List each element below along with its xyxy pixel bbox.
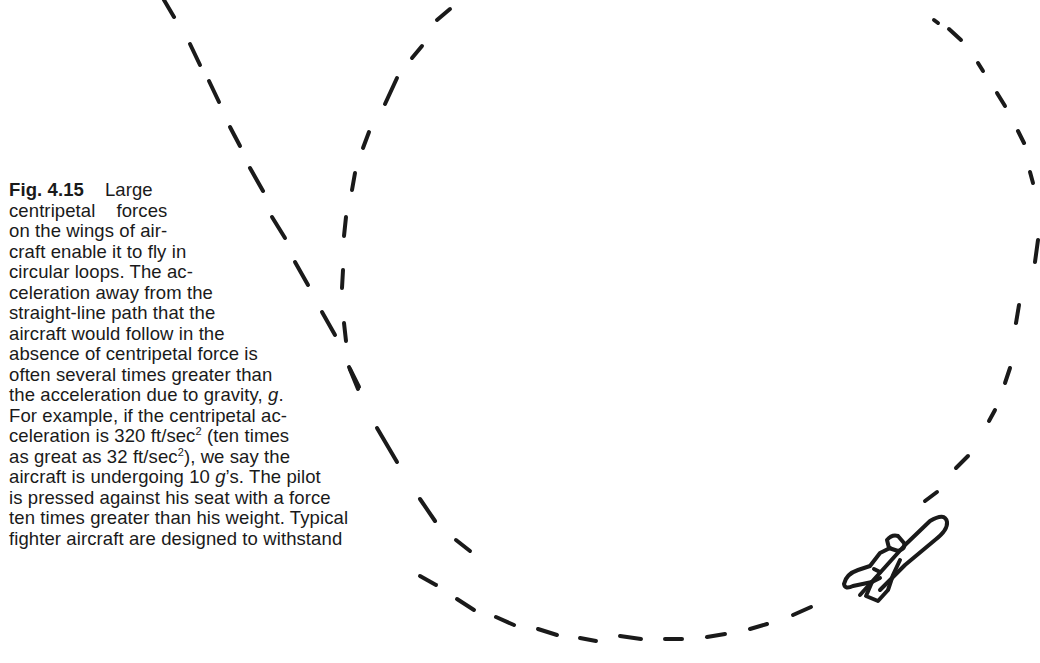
caption-line: centripetal forces <box>9 201 167 221</box>
caption-line: ten times greater than his weight. Typic… <box>9 508 348 528</box>
textbook-page: Fig. 4.15 Large centripetal forces on th… <box>0 0 1040 663</box>
caption-line: the acceleration due to gravity, g. <box>9 385 284 405</box>
caption-line: For example, if the centripetal ac- <box>9 406 287 426</box>
caption-line: Fig. 4.15 Large <box>9 180 153 200</box>
caption-line: aircraft is undergoing 10 g’s. The pilot <box>9 467 321 487</box>
caption-line: straight-line path that the <box>9 303 215 323</box>
caption-line: celeration away from the <box>9 283 213 303</box>
caption-line: as great as 32 ft/sec2), we say the <box>9 447 290 467</box>
caption-line: craft enable it to fly in <box>9 242 186 262</box>
caption-line: on the wings of air- <box>9 221 167 241</box>
circular-loop-path <box>342 9 1038 641</box>
caption-line: often several times greater than <box>9 365 272 385</box>
caption-line: circular loops. The ac- <box>9 262 193 282</box>
figure-label: Fig. 4.15 <box>9 179 84 200</box>
airplane-icon <box>844 517 947 601</box>
caption-line: aircraft would follow in the <box>9 324 225 344</box>
caption-line: is pressed against his seat with a force <box>9 488 331 508</box>
caption-line: celeration is 320 ft/sec2 (ten times <box>9 426 289 446</box>
caption-line: fighter aircraft are designed to withsta… <box>9 529 342 549</box>
caption-line: absence of centripetal force is <box>9 344 258 364</box>
